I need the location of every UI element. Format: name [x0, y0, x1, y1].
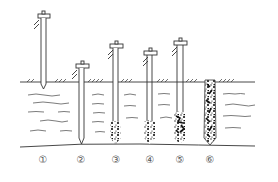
bearing-layer-line	[20, 144, 255, 147]
soil-strata	[28, 94, 255, 133]
concrete-fill	[174, 112, 186, 145]
concrete-fill	[143, 121, 155, 145]
pile-stage-6	[204, 80, 216, 145]
stage-label-3: ③	[109, 153, 123, 167]
stage-label-4: ④	[143, 153, 157, 167]
pile-stage-2	[72, 61, 89, 144]
ground-surface	[20, 79, 255, 82]
pile-stage-3	[108, 41, 123, 144]
stage-label-6: ⑥	[203, 153, 217, 167]
concrete-fill	[110, 121, 121, 144]
pile-stage-4	[143, 48, 157, 144]
stage-label-5: ⑤	[173, 153, 187, 167]
stage-label-2: ②	[74, 153, 88, 167]
pile-stage-1	[34, 11, 50, 89]
stage-label-1: ①	[36, 153, 50, 167]
pile-stage-5	[172, 38, 187, 144]
